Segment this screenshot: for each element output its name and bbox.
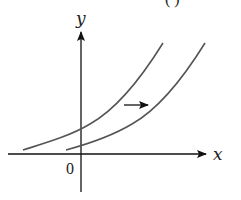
- shifted-curve: [66, 43, 205, 150]
- partial-caption: ( ): [165, 0, 180, 8]
- origin-label: 0: [66, 160, 74, 177]
- graph-canvas: ( ) y x 0: [0, 0, 241, 200]
- y-axis-label: y: [75, 8, 86, 28]
- x-axis-label: x: [213, 144, 223, 164]
- original-curve: [23, 43, 163, 150]
